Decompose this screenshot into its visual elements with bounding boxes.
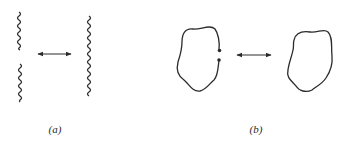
panel-a-label-text: (a) — [49, 123, 62, 135]
panel-a — [18, 12, 91, 102]
endpoint-dot-lower-icon — [217, 58, 221, 62]
wavy-segment-lower-icon — [19, 64, 22, 102]
panel-b-label-text: (b) — [250, 123, 263, 135]
panel-a-label: (a) — [49, 123, 62, 135]
panel-b — [177, 27, 332, 91]
endpoint-dot-upper-icon — [218, 49, 222, 53]
panel-b-label: (b) — [250, 123, 263, 135]
closed-loop-icon — [288, 30, 333, 91]
wavy-string-continuous-icon — [88, 16, 91, 96]
open-loop-icon — [177, 27, 219, 91]
wavy-segment-upper-icon — [18, 12, 21, 50]
